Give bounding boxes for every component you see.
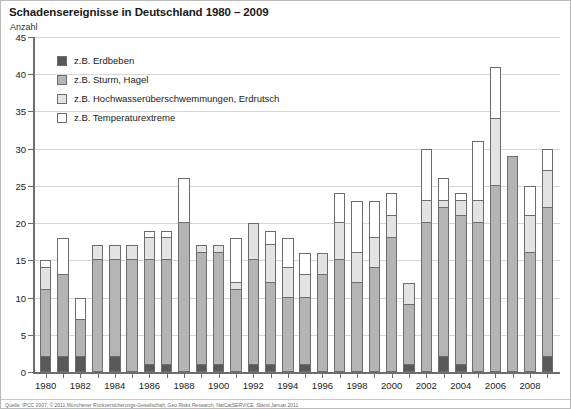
bar-segment-temperaturextreme: [334, 193, 345, 223]
bar-1999[interactable]: [369, 201, 380, 372]
bar-segment-sturm-hagel: [317, 275, 328, 372]
bar-1993[interactable]: [265, 231, 276, 372]
x-axis-tick: [98, 374, 99, 378]
bar-segment-temperaturextreme: [472, 141, 483, 201]
x-axis-tick: [357, 374, 358, 378]
bar-segment-erdbeben: [144, 365, 155, 372]
bar-1981[interactable]: [57, 238, 68, 372]
segment-divider: [40, 289, 51, 290]
bar-segment-temperaturextreme: [57, 238, 68, 275]
x-axis-tick: [392, 374, 393, 378]
x-axis-tick: [80, 374, 81, 378]
bar-segment-sturm-hagel: [351, 283, 362, 372]
bar-segment-temperaturextreme: [75, 298, 86, 320]
bar-segment-hochwasser: [317, 253, 328, 275]
legend-item-label: z.B. Erdbeben: [74, 55, 134, 66]
segment-divider: [334, 259, 345, 260]
bar-2007[interactable]: [507, 156, 518, 372]
bar-1992[interactable]: [248, 223, 259, 372]
segment-divider: [299, 274, 310, 275]
bar-1995[interactable]: [299, 253, 310, 372]
segment-divider: [196, 364, 207, 365]
x-axis-tick: [530, 374, 531, 378]
bar-segment-sturm-hagel: [178, 223, 189, 372]
bar-2003[interactable]: [438, 178, 449, 372]
bar-1997[interactable]: [334, 193, 345, 372]
bar-1998[interactable]: [351, 201, 362, 372]
y-axis-tick: [28, 74, 33, 75]
x-axis-tick: [288, 374, 289, 378]
y-axis-tick-label: 40: [15, 69, 26, 80]
bar-2006[interactable]: [490, 67, 501, 372]
bar-2009[interactable]: [542, 149, 553, 372]
x-axis-tick-label: 1980: [35, 380, 56, 391]
segment-divider: [161, 259, 172, 260]
segment-divider: [386, 215, 397, 216]
bar-1980[interactable]: [40, 260, 51, 372]
x-axis-tick-label: 2002: [416, 380, 437, 391]
x-axis-tick: [305, 374, 306, 378]
segment-divider: [230, 282, 241, 283]
bar-segment-hochwasser: [299, 275, 310, 297]
bar-segment-hochwasser: [282, 268, 293, 298]
segment-divider: [144, 237, 155, 238]
bar-1984[interactable]: [109, 245, 120, 372]
bar-segment-hochwasser: [455, 201, 466, 216]
bar-2008[interactable]: [524, 186, 535, 372]
legend-swatch-sturm-hagel: [57, 75, 67, 85]
bar-1990[interactable]: [213, 245, 224, 372]
x-axis-tick: [132, 374, 133, 378]
y-axis-tick: [28, 111, 33, 112]
page-title: Schadensereignisse in Deutschland 1980 –…: [9, 6, 269, 18]
y-axis-tick: [28, 149, 33, 150]
y-axis-tick: [28, 223, 33, 224]
bar-1991[interactable]: [230, 238, 241, 372]
segment-divider: [144, 259, 155, 260]
x-axis-tick: [340, 374, 341, 378]
y-axis-tick-label: 0: [21, 367, 26, 378]
x-axis-tick-label: 1900: [208, 380, 229, 391]
segment-divider: [369, 237, 380, 238]
segment-divider: [472, 222, 483, 223]
x-axis-tick: [495, 374, 496, 378]
bar-segment-temperaturextreme: [542, 149, 553, 171]
bar-segment-hochwasser: [248, 223, 259, 260]
bar-segment-erdbeben: [196, 365, 207, 372]
bar-1994[interactable]: [282, 238, 293, 372]
bar-segment-sturm-hagel: [421, 223, 432, 372]
bar-1983[interactable]: [92, 245, 103, 372]
segment-divider: [334, 222, 345, 223]
legend-item: z.B. Temperaturextreme: [57, 112, 279, 123]
legend-swatch-temperaturextreme: [57, 113, 67, 123]
bar-1987[interactable]: [161, 231, 172, 372]
bar-2005[interactable]: [472, 141, 483, 372]
y-axis-tick: [28, 372, 33, 373]
bar-1982[interactable]: [75, 298, 86, 372]
segment-divider: [178, 222, 189, 223]
segment-divider: [455, 364, 466, 365]
x-axis-tick: [167, 374, 168, 378]
bar-2001[interactable]: [403, 283, 414, 372]
bar-segment-hochwasser: [92, 245, 103, 260]
bar-2000[interactable]: [386, 193, 397, 372]
segment-divider: [109, 259, 120, 260]
bar-1985[interactable]: [126, 245, 137, 372]
segment-divider: [472, 200, 483, 201]
x-axis-tick-label: 2006: [485, 380, 506, 391]
bar-2002[interactable]: [421, 149, 432, 372]
bar-segment-sturm-hagel: [507, 156, 518, 372]
bar-1986[interactable]: [144, 231, 155, 372]
bar-1988[interactable]: [178, 178, 189, 372]
bar-segment-erdbeben: [75, 357, 86, 372]
segment-divider: [299, 364, 310, 365]
bar-1989[interactable]: [196, 245, 207, 372]
y-axis-tick: [28, 298, 33, 299]
x-axis-tick: [547, 374, 548, 378]
bar-2004[interactable]: [455, 193, 466, 372]
x-axis-tick-label: 2000: [381, 380, 402, 391]
bar-segment-erdbeben: [542, 357, 553, 372]
segment-divider: [386, 237, 397, 238]
legend-swatch-erdbeben: [57, 56, 67, 66]
segment-divider: [524, 252, 535, 253]
bar-1996[interactable]: [317, 253, 328, 372]
